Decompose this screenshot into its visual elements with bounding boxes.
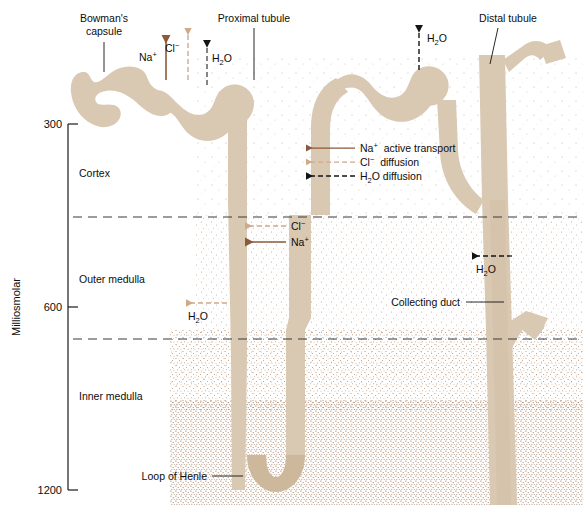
region-label-outer-medulla: Outer medulla bbox=[79, 273, 145, 285]
bowmans-capsule-label-line1: Bowman's bbox=[80, 12, 128, 24]
axis-tick-label-600: 600 bbox=[44, 301, 62, 313]
collecting-duct-label: Collecting duct bbox=[391, 296, 460, 308]
distal-tubule-label: Distal tubule bbox=[479, 12, 537, 24]
axis-title: Milliosmolar bbox=[10, 278, 22, 336]
bowmans-capsule-label-line2: capsule bbox=[86, 25, 122, 37]
loop-of-henle-label: Loop of Henle bbox=[142, 470, 208, 482]
region-label-cortex: Cortex bbox=[79, 167, 111, 179]
nephron-diagram-svg: 300 600 1200 Milliosmolar Cortex Outer m… bbox=[0, 0, 583, 521]
legend-label-cl: Cl− diffusion bbox=[360, 155, 419, 168]
axis-tick-label-300: 300 bbox=[44, 118, 62, 130]
region-label-inner-medulla: Inner medulla bbox=[79, 390, 143, 402]
proximal-tubule-label: Proximal tubule bbox=[218, 12, 291, 24]
axis-tick-label-1200: 1200 bbox=[38, 484, 62, 496]
figure-canvas: 300 600 1200 Milliosmolar Cortex Outer m… bbox=[0, 0, 583, 521]
